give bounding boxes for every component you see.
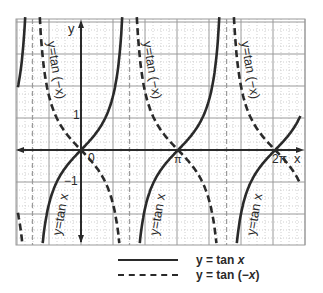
two-pi-label: 2π	[272, 152, 287, 166]
y-axis-label: y	[68, 21, 75, 36]
tan-neg-x-curve	[18, 213, 22, 244]
legend: y = tan x y = tan (−x)	[118, 252, 259, 282]
origin-label: 0	[88, 151, 95, 165]
legend-label: y = tan (−x)	[196, 268, 259, 282]
y-axis-up-arrow	[78, 20, 84, 28]
y-one-label: 1	[73, 108, 80, 122]
pi-label: π	[174, 153, 182, 165]
legend-item-tan-neg-x: y = tan (−x)	[118, 267, 259, 282]
trig-graph: y x 0 π 2π 1 −1 y=tan (−x) y=tan (−x) y=…	[0, 0, 323, 293]
x-axis-label: x	[294, 151, 301, 166]
legend-item-tan-x: y = tan x	[118, 252, 259, 267]
solid-line-swatch	[118, 259, 178, 261]
y-neg-one-label: −1	[64, 174, 78, 188]
legend-label: y = tan x	[196, 253, 244, 267]
y-axis-down-arrow	[78, 235, 84, 243]
tan-x-curve	[18, 17, 25, 87]
dashed-line-swatch	[118, 274, 178, 276]
